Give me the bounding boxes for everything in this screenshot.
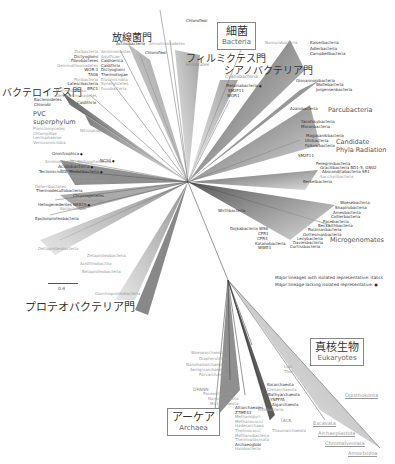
thor-label: Thor bbox=[284, 370, 293, 375]
acidithiobacillia-label: Acidithiobacillia bbox=[80, 262, 111, 267]
woesearchaeota-label: Woesearchaeota bbox=[191, 351, 224, 356]
chrysiogenetes-label-1: Chrysiogenetes bbox=[75, 179, 106, 184]
kaiserbacteria-label: Kaiserbacteria bbox=[310, 41, 339, 46]
amoebozoa-label: Amoebozoa bbox=[348, 450, 377, 457]
legend-italics-line: Major lineages with isolated representat… bbox=[275, 274, 383, 281]
bacteria-en-label: Bacteria bbox=[222, 38, 251, 47]
top-left-column-2: Aminicenantes Aquificae Caldiserica Cald… bbox=[101, 50, 131, 91]
cpr-label-2: Phyla Radiation bbox=[336, 146, 386, 154]
firmicutes-en-label: Firmicutes bbox=[186, 62, 209, 67]
azambacteria-label: Azambacteria bbox=[290, 107, 318, 112]
halobacteria-label: Halobacteria bbox=[258, 408, 283, 413]
actinobacteria-en-label: Actinobacteria bbox=[116, 42, 145, 47]
sm2f11-label-b: SM2F11 bbox=[298, 154, 314, 159]
cpr-label-1: Candidate bbox=[336, 138, 369, 146]
parcubacteria-label: Parcubacteria bbox=[328, 106, 373, 114]
scale-bar-label: 0.4 bbox=[58, 286, 65, 291]
jorgensenbacteria-label: Jorgensenbacteria bbox=[316, 88, 352, 93]
eukaryotes-en-label: Eukaryotes bbox=[315, 354, 359, 363]
pvc-label: PVC bbox=[33, 110, 46, 118]
label: Fusobacteria bbox=[101, 87, 131, 92]
betaproteobacteria-label: Betaproteobacteria bbox=[82, 270, 121, 275]
campbellbacteria-label: Campbellbacteria bbox=[310, 52, 345, 57]
armatimonadetes-label: Armatimonadetes bbox=[149, 42, 185, 47]
bullet-icon: ● bbox=[374, 282, 378, 287]
excavata-label: Excavata bbox=[313, 420, 336, 427]
eukaryotes-jp-label: 真核生物 bbox=[315, 341, 359, 354]
thaumarchaeota-label: Thaumarchaeota bbox=[272, 429, 306, 434]
curtissbacteria-label: Curtissbacteria bbox=[290, 245, 320, 250]
falkowbacteria-label: Falkowbacteria bbox=[305, 144, 335, 149]
opisthokonta-label: Opisthokonta bbox=[345, 392, 378, 399]
gammaproteobacteria-label: Gammaproteobacteria bbox=[95, 292, 140, 297]
eukaryotes-domain-box: 真核生物 Eukaryotes bbox=[310, 338, 364, 366]
chromalveolata-label: Chromalveolata bbox=[325, 440, 365, 447]
chloroflexi-top-label: Chloroflexi bbox=[186, 19, 207, 24]
legend-dot-line: Major lineage lacking isolated represent… bbox=[275, 281, 383, 288]
euryarchaeota-list: Altiarchaeales Z7ME43 Methanopyri Methan… bbox=[235, 406, 269, 452]
archaea-domain-box: アーケア Archaea bbox=[167, 408, 220, 436]
wwe3-label: WWE3 bbox=[258, 246, 271, 251]
archaea-en-label: Archaea bbox=[172, 424, 215, 433]
top-left-column-1: Zixibacteria Dictyoglomi Fibrobacteres G… bbox=[50, 50, 98, 91]
epsilonproteobacteria-label: Epsilonproteobacteria bbox=[35, 217, 79, 222]
moranbacteria-label: Moranbacteria bbox=[301, 125, 330, 130]
label: Verrucomicrobia bbox=[33, 141, 66, 146]
parvarchaeota-label: Parvarchaeota bbox=[199, 373, 228, 378]
bacteria-jp-label: 細菌 bbox=[222, 25, 251, 38]
zetaproteobacteria-label: Zetaproteobacteria bbox=[87, 254, 126, 259]
pvc-superphylum-label: superphylum bbox=[33, 118, 76, 126]
pvc-members: Planctomycetes Chlamydiae Lentisphaerae … bbox=[33, 127, 66, 145]
cyanobacteria-en-label: Cyanobacteria bbox=[225, 74, 258, 79]
label: Halobacteria bbox=[235, 447, 269, 452]
nomurabacteria-label: Nomurabacteria bbox=[265, 41, 297, 46]
scale-bar bbox=[48, 283, 78, 284]
gemmatimonadetes-label: Gemmatimonadetes bbox=[56, 94, 97, 99]
tack-label: TACK bbox=[280, 418, 292, 423]
wor1-label: WOR1 bbox=[227, 94, 239, 99]
diapherotrites-label: Diapherotrites bbox=[199, 357, 228, 362]
caldithrix-label: Caldithrix bbox=[77, 101, 96, 106]
legend-dot-text: Major lineage lacking isolated represent… bbox=[275, 282, 373, 287]
proteobacteria-jp-label: プロテオバクテリア門 bbox=[25, 298, 135, 314]
bacteria-domain-box: 細菌 Bacteria bbox=[217, 22, 256, 50]
archaea-jp-label: アーケア bbox=[172, 411, 215, 424]
spirochaetes-label: Spirochaetes bbox=[60, 207, 86, 212]
chloroflexi-label: Chloroflexi bbox=[145, 51, 166, 56]
nitrospirae-label: Nitrospirae bbox=[80, 129, 102, 134]
deltaproteobacteria-label: Deltaproteobacteria bbox=[38, 247, 78, 252]
berkelbacteria-label: Berkelbacteria bbox=[303, 180, 332, 185]
chlorobi-label: Chlorobi bbox=[34, 103, 51, 108]
wirthbacteria-label: Wirthbacteria bbox=[218, 209, 245, 214]
archaeplastida-label: Archaeplastida bbox=[318, 430, 355, 437]
legend: Major lineages with isolated representat… bbox=[275, 274, 383, 288]
omnitrophica-label: Omnitrophica bbox=[52, 152, 83, 157]
nc10-label: NC10 bbox=[100, 159, 115, 164]
